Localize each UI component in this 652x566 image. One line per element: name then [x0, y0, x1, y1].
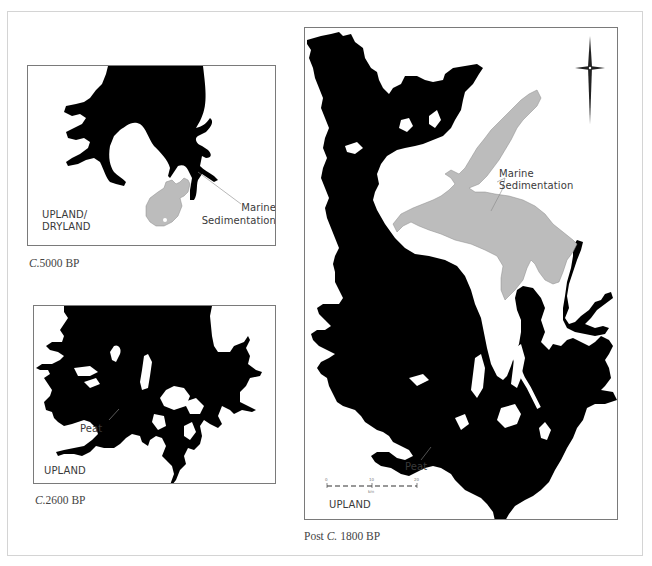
- scale-tick-0: 0: [325, 477, 328, 482]
- estuary-map-2600bp: [34, 306, 276, 484]
- label-line: UPLAND/: [42, 209, 91, 221]
- estuary-map-post1800bp: [305, 28, 618, 520]
- label-line: DRYLAND: [42, 221, 91, 233]
- caption-date: 1800 BP: [337, 530, 380, 542]
- caption-post: Post: [304, 530, 327, 542]
- label-peat: Peat: [80, 423, 102, 435]
- caption-5000bp: C.5000 BP: [29, 257, 80, 269]
- caption-post1800bp: Post C. 1800 BP: [304, 530, 380, 542]
- label-peat: Peat: [405, 461, 427, 473]
- label-upland-dryland: UPLAND/ DRYLAND: [42, 209, 91, 233]
- scale-tick-20: 20: [414, 477, 419, 482]
- caption-date: 2600 BP: [46, 494, 86, 506]
- north-arrow-icon: [575, 36, 605, 124]
- label-upland: UPLAND: [329, 499, 371, 511]
- label-line: Marine: [499, 168, 573, 180]
- caption-circa: C.: [35, 494, 46, 506]
- water-body: [36, 306, 262, 484]
- label-line: Sedimentation: [499, 180, 573, 192]
- label-line: Sedimentation: [198, 215, 276, 227]
- map-panel-2600bp: Peat UPLAND: [33, 305, 276, 484]
- label-marine-sedimentation-2: Sedimentation: [198, 215, 276, 227]
- scale-unit: km: [368, 489, 374, 494]
- label-marine-sedimentation: Marine: [226, 202, 276, 214]
- caption-date: 5000 BP: [40, 257, 80, 269]
- label-marine-sedimentation: Marine Sedimentation: [499, 168, 573, 192]
- water-body: [64, 66, 218, 200]
- caption-circa: C.: [327, 530, 338, 542]
- scale-tick-10: 10: [369, 477, 374, 482]
- map-panel-post1800bp: Marine Sedimentation Peat UPLAND 0 10 20…: [304, 27, 618, 520]
- label-upland: UPLAND: [44, 465, 86, 477]
- caption-circa: C.: [29, 257, 40, 269]
- caption-2600bp: C.2600 BP: [35, 494, 86, 506]
- scale-bar: [327, 483, 417, 488]
- marine-sedimentation-area: [146, 178, 190, 226]
- map-panel-5000bp: Marine Sedimentation UPLAND/ DRYLAND: [27, 65, 276, 246]
- label-line: Marine: [226, 202, 276, 214]
